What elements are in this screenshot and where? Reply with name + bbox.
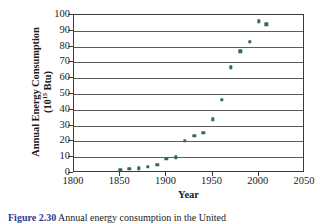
- data-point: [220, 98, 223, 101]
- data-point: [128, 167, 131, 170]
- y-tick-label: 60: [44, 72, 70, 83]
- data-point: [137, 167, 140, 170]
- data-point: [118, 168, 121, 171]
- gridline: [74, 94, 303, 95]
- y-tick-label: 70: [44, 56, 70, 67]
- x-tick-mark: [165, 172, 166, 176]
- y-tick-label: 40: [44, 104, 70, 115]
- y-tick-label: 30: [44, 119, 70, 130]
- y-axis-title-wrap: Annual Energy Consumption (1015 Btu): [0, 0, 34, 180]
- figure-caption: Figure 2.30 Annual energy consumption in…: [8, 212, 328, 224]
- y-tick-label: 10: [44, 151, 70, 162]
- data-point: [211, 118, 214, 121]
- y-tick-label: 20: [44, 135, 70, 146]
- data-point: [174, 155, 177, 158]
- gridline: [74, 31, 303, 32]
- x-tick-label: 1800: [53, 175, 93, 186]
- x-axis-title: Year: [73, 189, 304, 200]
- gridline: [74, 78, 303, 79]
- data-point: [146, 165, 149, 168]
- x-tick-label: 1850: [99, 175, 139, 186]
- gridline: [74, 47, 303, 48]
- y-tick-label: 100: [44, 9, 70, 20]
- figure-caption-label: Figure 2.30: [8, 212, 56, 223]
- x-tick-label: 2050: [284, 175, 324, 186]
- x-tick-mark: [258, 172, 259, 176]
- x-tick-label: 1950: [192, 175, 232, 186]
- data-point: [264, 23, 267, 26]
- gridline: [74, 126, 303, 127]
- x-tick-label: 2000: [238, 175, 278, 186]
- gridline: [74, 141, 303, 142]
- data-point: [155, 163, 158, 166]
- y-tick-label: 90: [44, 25, 70, 36]
- x-tick-mark: [212, 172, 213, 176]
- data-point: [248, 40, 251, 43]
- gridline: [74, 110, 303, 111]
- x-tick-label: 1900: [145, 175, 185, 186]
- data-point: [229, 65, 232, 68]
- data-point: [257, 20, 260, 23]
- data-point: [165, 157, 168, 160]
- y-tick-label: 80: [44, 40, 70, 51]
- figure-caption-text: Annual energy consumption in the United: [58, 212, 226, 223]
- gridline: [74, 157, 303, 158]
- data-point: [239, 50, 242, 53]
- y-axis-title-line1: Annual Energy Consumption: [30, 27, 41, 156]
- y-tick-label: 50: [44, 88, 70, 99]
- data-point: [192, 134, 195, 137]
- figure-container: Annual Energy Consumption (1015 Btu) 010…: [0, 0, 328, 224]
- data-point: [202, 131, 205, 134]
- x-tick-mark: [119, 172, 120, 176]
- plot-area: [73, 14, 304, 172]
- y-tick-mark: [68, 172, 73, 173]
- gridline: [74, 62, 303, 63]
